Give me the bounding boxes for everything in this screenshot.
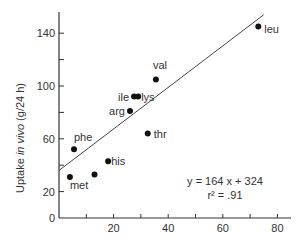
y-tick-label: 0 xyxy=(49,212,55,224)
y-tick-label: 140 xyxy=(37,27,55,39)
data-point xyxy=(255,24,261,30)
y-tick-label: 60 xyxy=(43,133,55,145)
point-label-thr: thr xyxy=(154,128,167,140)
data-point xyxy=(153,76,159,82)
data-point xyxy=(71,146,77,152)
x-tick-label: 80 xyxy=(271,222,283,234)
y-axis-title: Uptake in vivo (g/24 h) xyxy=(14,83,26,193)
scatter-chart: 2040608002060100140 metphehisargilelysth… xyxy=(0,0,306,249)
point-label-leu: leu xyxy=(264,23,279,35)
regression-line xyxy=(59,15,264,171)
data-point xyxy=(145,131,151,137)
regression-equation: y = 164 x + 324 xyxy=(187,175,263,187)
fit-line xyxy=(59,15,264,171)
point-label-ile: ile xyxy=(118,91,129,103)
x-tick-label: 60 xyxy=(217,222,229,234)
data-points xyxy=(67,24,261,180)
point-label-his: his xyxy=(111,155,126,167)
data-point xyxy=(91,171,97,177)
point-label-lys: lys xyxy=(141,91,155,103)
x-tick-label: 40 xyxy=(162,222,174,234)
y-tick-label: 100 xyxy=(37,80,55,92)
point-label-met: met xyxy=(70,179,88,191)
y-tick-label: 20 xyxy=(43,186,55,198)
x-tick-label: 20 xyxy=(107,222,119,234)
point-label-phe: phe xyxy=(74,131,92,143)
point-label-arg: arg xyxy=(109,105,125,117)
point-labels: metphehisargilelysthrvalleu xyxy=(70,23,279,191)
point-label-val: val xyxy=(153,59,167,71)
r-squared: r² = .91 xyxy=(207,189,242,201)
axes xyxy=(59,12,291,218)
data-point xyxy=(127,108,133,114)
